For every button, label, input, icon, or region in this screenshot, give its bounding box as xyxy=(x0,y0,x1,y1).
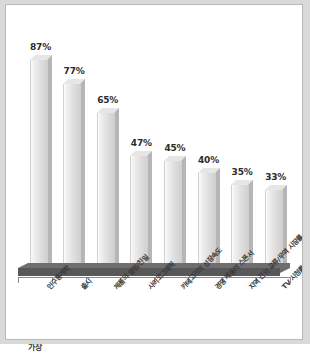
x-axis-tick-labels: 인구통계학출시제품의 열정/친밀사이코그래픽카테고리의 성장속도경쟁 제품의 스… xyxy=(6,284,303,340)
bar[interactable] xyxy=(130,151,147,269)
bar-value-label: 45% xyxy=(164,143,185,153)
bar-front-face xyxy=(63,84,81,269)
bar[interactable] xyxy=(164,156,181,269)
bar[interactable] xyxy=(97,108,114,269)
floor-right-bevel xyxy=(280,268,290,273)
bar-value-label: 35% xyxy=(232,167,253,177)
bar-value-label: 65% xyxy=(97,95,118,105)
chart-panel: 87%77%65%47%45%40%35%33% 인구통계학출시제품의 열정/친… xyxy=(5,4,303,340)
figure-caption-text: 가장 xyxy=(28,344,42,352)
bar-value-label: 33% xyxy=(265,172,286,182)
bar-value-label: 47% xyxy=(131,138,152,148)
bar-front-face xyxy=(97,113,115,269)
x-axis-tick xyxy=(18,277,19,283)
bar-front-face xyxy=(164,161,182,269)
bar-value-label: 77% xyxy=(64,66,85,76)
bar[interactable] xyxy=(63,79,80,269)
plot-area: 87%77%65%47%45%40%35%33% xyxy=(16,11,294,269)
figure-container: 87%77%65%47%45%40%35%33% 인구통계학출시제품의 열정/친… xyxy=(0,0,310,354)
bar[interactable] xyxy=(30,55,47,269)
bar-value-label: 40% xyxy=(198,155,219,165)
bar-front-face xyxy=(130,156,148,269)
figure-caption-strip: 가장 xyxy=(0,344,310,354)
bar-front-face xyxy=(30,60,48,269)
bar-value-label: 87% xyxy=(30,42,51,52)
